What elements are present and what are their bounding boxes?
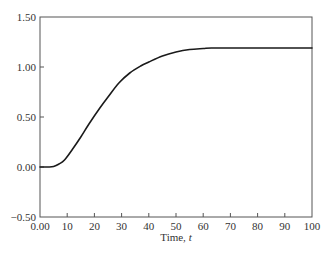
y-tick-label: 1.50 bbox=[17, 11, 37, 23]
x-tick-label: 100 bbox=[304, 220, 321, 232]
plot-frame bbox=[40, 17, 312, 217]
x-tick-label: 60 bbox=[198, 220, 210, 232]
x-tick-label: 10 bbox=[62, 220, 74, 232]
y-tick-label: −0.50 bbox=[11, 211, 37, 223]
y-tick-label: 0.00 bbox=[17, 161, 37, 173]
x-axis-label: Time, t bbox=[160, 231, 192, 243]
line-chart: 0.00102030405060708090100 −0.500.000.501… bbox=[0, 0, 330, 253]
x-axis-ticks: 0.00102030405060708090100 bbox=[30, 213, 320, 232]
x-tick-label: 30 bbox=[116, 220, 128, 232]
x-tick-label: 90 bbox=[279, 220, 291, 232]
y-tick-label: 0.50 bbox=[17, 111, 37, 123]
x-tick-label: 80 bbox=[252, 220, 264, 232]
x-tick-label: 70 bbox=[225, 220, 237, 232]
x-tick-label: 40 bbox=[143, 220, 155, 232]
y-tick-label: 1.00 bbox=[17, 61, 37, 73]
y-axis-ticks: −0.500.000.501.001.50 bbox=[11, 11, 44, 223]
x-tick-label: 20 bbox=[89, 220, 101, 232]
response-curve bbox=[40, 48, 312, 167]
